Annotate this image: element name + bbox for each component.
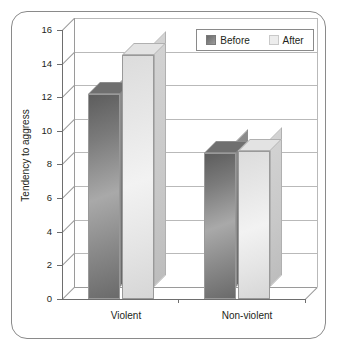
depth-diagonal-8 <box>62 152 75 165</box>
legend-swatch-before-icon <box>206 35 216 45</box>
x-axis-line <box>62 299 305 300</box>
y-tick-mark-0 <box>57 299 62 300</box>
x-category-label-nonviolent: Non-violent <box>202 310 292 322</box>
y-tick-mark-14 <box>57 64 62 65</box>
gridline-16 <box>74 18 317 19</box>
y-tick-label-16: 16 <box>26 25 52 35</box>
back-wall-right-edge <box>317 18 318 287</box>
bar-front-face <box>88 94 120 299</box>
legend-entry-after[interactable]: After <box>269 35 304 46</box>
bar-before-violent[interactable] <box>88 94 120 299</box>
bar-after-violent[interactable] <box>122 55 154 299</box>
y-axis-title: Tendency to aggress <box>20 86 31 226</box>
depth-diagonal-16 <box>62 18 75 31</box>
y-tick-mark-4 <box>57 232 62 233</box>
y-tick-label-4: 4 <box>26 227 52 237</box>
bar-before-nonviolent[interactable] <box>204 153 236 299</box>
back-wall-left-edge <box>74 18 75 287</box>
x-tick-mark-mid <box>178 299 179 303</box>
x-tick-mark-right <box>305 299 306 303</box>
legend-label-before: Before <box>220 35 249 46</box>
bar-after-nonviolent[interactable] <box>238 151 270 299</box>
depth-diagonal-10 <box>62 119 75 132</box>
legend-label-after: After <box>283 35 304 46</box>
legend-entry-before[interactable]: Before <box>206 35 249 46</box>
depth-diagonal-2 <box>62 253 75 266</box>
plot-area: 16 14 12 10 8 6 4 2 0 Violent Non-violen… <box>0 0 341 354</box>
depth-diagonal-4 <box>62 220 75 233</box>
y-tick-mark-16 <box>57 30 62 31</box>
bar-side-face <box>154 31 166 287</box>
depth-diagonal-0 <box>62 287 75 300</box>
chart-legend[interactable]: Before After <box>196 29 314 51</box>
gridline-14 <box>74 52 317 53</box>
depth-diagonal-14 <box>62 52 75 65</box>
y-tick-mark-10 <box>57 131 62 132</box>
y-tick-label-2: 2 <box>26 260 52 270</box>
y-tick-mark-8 <box>57 164 62 165</box>
y-tick-label-0: 0 <box>26 294 52 304</box>
floor-diagonal-right <box>305 287 318 300</box>
bar-front-face <box>238 151 270 299</box>
bar-front-face <box>204 153 236 299</box>
y-tick-mark-2 <box>57 265 62 266</box>
legend-swatch-after-icon <box>269 35 279 45</box>
depth-diagonal-12 <box>62 85 75 98</box>
y-tick-label-14: 14 <box>26 59 52 69</box>
y-tick-mark-6 <box>57 198 62 199</box>
x-category-label-violent: Violent <box>86 310 166 322</box>
y-axis-line <box>62 30 63 299</box>
depth-diagonal-6 <box>62 186 75 199</box>
bar-front-face <box>122 55 154 299</box>
bar-side-face <box>270 127 282 287</box>
y-tick-mark-12 <box>57 97 62 98</box>
chart-figure: 16 14 12 10 8 6 4 2 0 Violent Non-violen… <box>0 0 341 354</box>
